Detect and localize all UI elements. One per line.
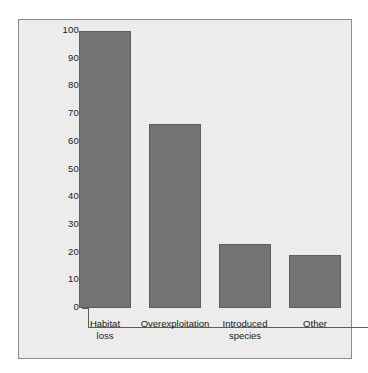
bar bbox=[289, 255, 341, 308]
y-tick-label: 50 bbox=[68, 163, 79, 174]
x-category-label: Other bbox=[280, 318, 350, 330]
y-tick-label: 70 bbox=[68, 107, 79, 118]
bar bbox=[79, 31, 131, 308]
bar bbox=[219, 244, 271, 308]
y-tick-label: 80 bbox=[68, 79, 79, 90]
y-tick-label: 30 bbox=[68, 218, 79, 229]
x-category-label: Introduced species bbox=[210, 318, 280, 342]
y-tick-mark bbox=[82, 308, 88, 309]
x-category-label: Overexploitation bbox=[140, 318, 210, 330]
bar bbox=[149, 124, 201, 308]
y-tick-label: 60 bbox=[68, 135, 79, 146]
y-tick-label: 90 bbox=[68, 52, 79, 63]
y-tick-label: 40 bbox=[68, 190, 79, 201]
y-tick-label: 10 bbox=[68, 273, 79, 284]
x-category-label: Habitat loss bbox=[70, 318, 140, 342]
y-tick-label: 100 bbox=[63, 24, 79, 35]
chart-panel: Percent of species affected 100908070605… bbox=[18, 19, 352, 359]
y-tick-label: 20 bbox=[68, 246, 79, 257]
